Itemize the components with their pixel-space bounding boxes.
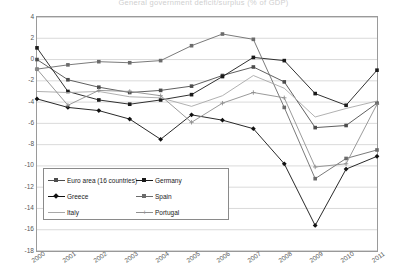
legend-label: Greece: [65, 193, 88, 200]
legend-label: Euro area (16 countries): [65, 177, 137, 184]
legend-item-spain[interactable]: Spain: [136, 192, 224, 201]
legend-key-icon: [48, 208, 65, 217]
data-point: [128, 61, 132, 65]
data-point: [97, 60, 101, 64]
data-point: [344, 167, 349, 172]
data-point: [190, 44, 194, 48]
data-point: [344, 103, 348, 107]
legend-key-icon: [48, 192, 65, 201]
series-line: [37, 48, 377, 105]
chart-svg: [0, 0, 407, 278]
data-point: [252, 38, 256, 42]
data-point: [344, 124, 348, 128]
data-point: [96, 108, 101, 113]
data-point: [313, 177, 317, 181]
legend-item-portugal[interactable]: + Portugal: [136, 208, 224, 217]
data-point: [220, 101, 224, 105]
legend-label: Portugal: [153, 209, 179, 216]
data-point: [221, 75, 225, 79]
data-point: [159, 89, 163, 93]
data-point: [159, 59, 163, 63]
chart-container: General government deficit/surplus (% of…: [0, 0, 407, 278]
data-point: [375, 154, 380, 159]
legend-row: Greece Spain: [48, 188, 224, 204]
data-point: [252, 56, 256, 60]
legend-row: Euro area (16 countries) Germany: [48, 172, 224, 188]
data-point: [375, 148, 379, 152]
data-point: [97, 98, 101, 102]
series-line: [37, 76, 377, 117]
legend-key-icon: [48, 176, 65, 185]
data-point: [313, 165, 317, 169]
data-point: [282, 96, 286, 100]
legend-label: Spain: [153, 193, 172, 200]
data-point: [159, 98, 163, 102]
data-point: [127, 117, 132, 122]
data-point: [282, 106, 286, 110]
legend-row: Italy + Portugal: [48, 204, 224, 220]
data-point: [128, 102, 132, 106]
legend-item-italy[interactable]: Italy: [48, 208, 136, 217]
data-point: [313, 223, 318, 228]
series-line: [37, 69, 377, 167]
data-point: [344, 157, 348, 161]
data-point: [313, 126, 317, 130]
data-point: [313, 92, 317, 96]
data-point: [190, 84, 194, 88]
data-point: [35, 58, 39, 62]
legend-key-icon: [136, 176, 153, 185]
legend-item-germany[interactable]: Germany: [136, 176, 224, 185]
legend-label: Germany: [153, 177, 182, 184]
data-point: [251, 90, 255, 94]
data-point: [220, 118, 225, 123]
chart-legend: Euro area (16 countries) Germany Greece …: [43, 168, 229, 220]
data-point: [375, 68, 379, 72]
series-line: [37, 34, 377, 179]
legend-item-greece[interactable]: Greece: [48, 192, 136, 201]
data-point: [66, 78, 70, 82]
data-point: [35, 46, 39, 50]
data-point: [282, 59, 286, 63]
data-point: [221, 32, 225, 36]
data-point: [344, 162, 348, 166]
legend-key-icon: [136, 192, 153, 201]
x-axis: 2000200120022003200420052006200720082009…: [36, 254, 378, 274]
data-point: [282, 80, 286, 84]
data-point: [35, 97, 40, 102]
legend-item-euro-area[interactable]: Euro area (16 countries): [48, 176, 136, 185]
legend-label: Italy: [65, 209, 79, 216]
data-point: [190, 93, 194, 97]
data-point: [66, 63, 70, 67]
legend-key-icon: +: [136, 208, 153, 217]
data-point: [252, 65, 256, 69]
